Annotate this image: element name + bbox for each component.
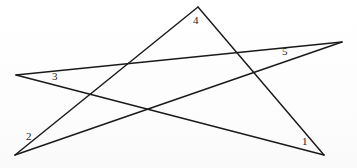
angle-label-2: 2 (26, 131, 32, 142)
edge-bottomleft-to-top (15, 7, 198, 155)
edge-top-to-bottomright (198, 7, 324, 155)
angle-label-5: 5 (282, 46, 288, 57)
angle-label-3: 3 (52, 71, 58, 82)
angle-label-4: 4 (193, 15, 199, 26)
angle-label-1: 1 (302, 136, 308, 147)
edge-bottomright-to-left (16, 75, 324, 155)
star-figure: 1 2 3 4 5 (0, 0, 357, 168)
